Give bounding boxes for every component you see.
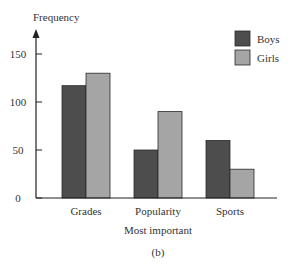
legend-swatch-girls <box>235 50 250 65</box>
y-ticks-group: 050100150 <box>10 48 42 204</box>
legend-label-boys: Boys <box>257 33 280 45</box>
x-tick-labels-group: GradesPopularitySports <box>70 205 244 217</box>
bar-boys-popularity <box>134 150 158 198</box>
y-tick-label: 150 <box>10 48 27 60</box>
x-tick-label: Grades <box>70 205 101 217</box>
x-tick-label: Popularity <box>135 205 181 217</box>
legend: BoysGirls <box>235 31 280 65</box>
bar-girls-sports <box>230 169 254 198</box>
bars-group <box>62 73 254 198</box>
x-axis-label: Most important <box>124 224 192 236</box>
y-tick-label: 0 <box>15 192 21 204</box>
figure-caption: (b) <box>152 246 165 259</box>
y-axis-arrow-icon <box>33 29 40 38</box>
legend-label-girls: Girls <box>257 52 279 64</box>
bar-girls-grades <box>86 73 110 198</box>
grouped-bar-chart: 050100150 GradesPopularitySports Frequen… <box>0 0 291 270</box>
x-tick-label: Sports <box>216 205 244 217</box>
y-tick-label: 50 <box>13 144 25 156</box>
y-axis-label: Frequency <box>33 11 80 23</box>
bar-boys-grades <box>62 86 86 198</box>
bar-girls-popularity <box>158 112 182 198</box>
legend-swatch-boys <box>235 31 250 46</box>
y-tick-label: 100 <box>10 96 27 108</box>
bar-boys-sports <box>206 140 230 198</box>
